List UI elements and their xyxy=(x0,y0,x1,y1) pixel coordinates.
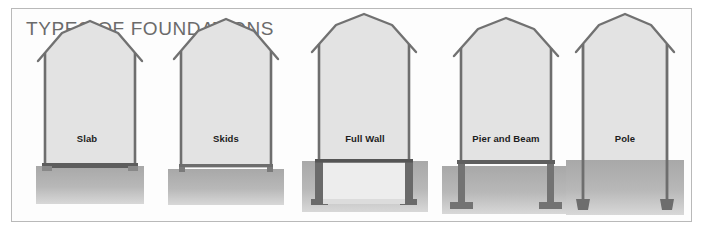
pier-and-beam-diagram xyxy=(436,9,576,221)
slab-edge-right xyxy=(128,166,138,171)
full-wall-diagram xyxy=(296,9,434,221)
pier-footing-left xyxy=(450,202,473,209)
foundation-panel-full-wall: Full Wall xyxy=(296,9,434,221)
foundation-wall-right xyxy=(405,159,413,204)
foundation-panel-pole: Pole xyxy=(560,9,690,221)
slab-diagram xyxy=(18,9,156,221)
building-wall xyxy=(460,51,552,161)
pole-footing-left xyxy=(576,199,590,210)
pole-footing-right xyxy=(660,199,674,210)
skid-block-left xyxy=(179,167,185,172)
foundation-panel-pier-and-beam: Pier and Beam xyxy=(436,9,576,221)
skids-diagram xyxy=(160,9,292,221)
foundation-panel-slab: Slab xyxy=(18,9,156,221)
building-wall xyxy=(180,54,272,166)
slab-foundation xyxy=(42,163,138,168)
foundation-panel-skids: Skids xyxy=(160,9,292,221)
pole-diagram xyxy=(560,9,690,221)
support-beam xyxy=(457,160,555,164)
pier-right xyxy=(547,164,554,204)
pier-left xyxy=(458,164,465,204)
basement-interior xyxy=(323,163,405,204)
panel-label-slab: Slab xyxy=(18,133,156,144)
panel-label-pole: Pole xyxy=(560,133,690,144)
panel-label-skids: Skids xyxy=(160,133,292,144)
basement-floor xyxy=(323,199,405,204)
foundation-wall-left xyxy=(315,159,323,204)
panel-label-full-wall: Full Wall xyxy=(296,133,434,144)
panel-label-pier-and-beam: Pier and Beam xyxy=(436,133,576,144)
floor-beam xyxy=(179,164,273,167)
sill-plate xyxy=(315,159,413,163)
foundations-figure: TYPES OF FOUNDATIONS xyxy=(0,0,704,234)
slab-edge-left xyxy=(42,166,52,171)
ground-band xyxy=(168,169,284,205)
pier-footing-right xyxy=(539,202,562,209)
foundation-panels: Slab xyxy=(12,9,691,221)
ground-band xyxy=(36,166,144,204)
building-wall xyxy=(44,56,136,164)
skid-block-right xyxy=(267,167,273,172)
